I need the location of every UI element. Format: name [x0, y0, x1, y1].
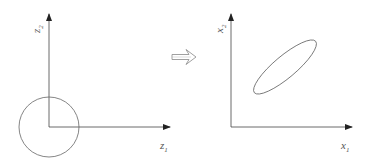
right-x-axis-label: x1 [340, 139, 349, 154]
left-x-axis-label: z1 [159, 139, 168, 154]
right-y-axis-label: x2 [213, 24, 228, 34]
transformed-ellipse [247, 33, 322, 101]
left-plot: z2 z1 [19, 14, 170, 157]
left-y-axis-label: z2 [30, 25, 45, 34]
hollow-double-arrow-right-icon [172, 50, 196, 65]
right-plot: x2 x1 [213, 14, 352, 154]
